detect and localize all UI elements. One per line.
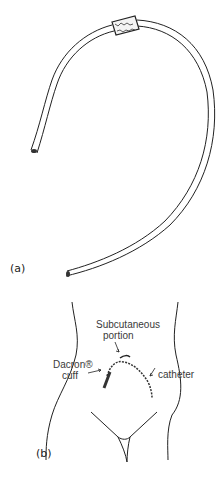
diagram-canvas bbox=[0, 0, 220, 477]
subcutaneous-label-line1: Subcutaneous bbox=[96, 320, 160, 330]
implanted-catheter bbox=[104, 362, 152, 398]
dacron-label-line1: Dacron® bbox=[53, 360, 93, 370]
catheter-end-right bbox=[66, 271, 70, 277]
catheter-tube bbox=[31, 20, 215, 276]
dacron-label-line2: cuff bbox=[62, 371, 78, 381]
catheter-end-left bbox=[31, 149, 37, 153]
dacron-cuff bbox=[112, 16, 139, 35]
catheter-label: catheter bbox=[158, 370, 194, 380]
arrows bbox=[88, 342, 155, 376]
subcutaneous-label-line2: portion bbox=[103, 331, 134, 341]
panel-b-label: (b) bbox=[36, 447, 52, 460]
panel-a-label: (a) bbox=[10, 262, 25, 275]
